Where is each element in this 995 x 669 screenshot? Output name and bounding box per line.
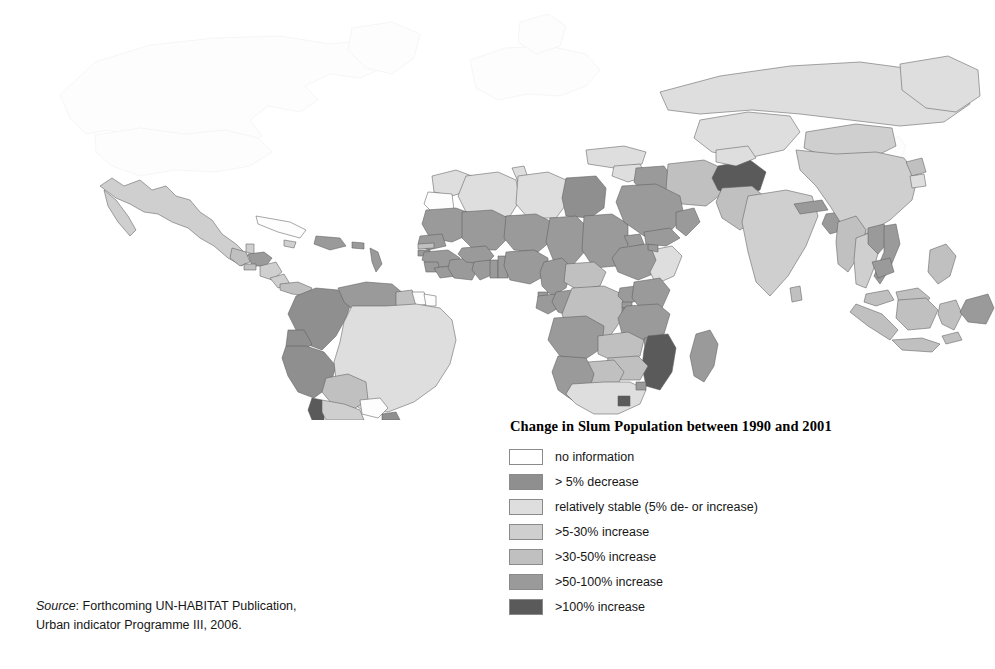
map-group-latin-america xyxy=(100,178,456,420)
country-chile xyxy=(308,398,324,420)
source-note: Source: Forthcoming UN-HABITAT Publicati… xyxy=(36,597,297,635)
legend-swatch-increase-5-30 xyxy=(509,524,543,540)
map-legend: Change in Slum Population between 1990 a… xyxy=(509,418,979,619)
country-french-guiana xyxy=(424,294,436,306)
world-map-svg xyxy=(0,0,995,420)
country-lesser-antilles xyxy=(370,248,382,272)
country-papua-new-guinea xyxy=(960,294,994,324)
legend-label-no-information: no information xyxy=(555,450,634,464)
country-uruguay xyxy=(382,412,400,420)
legend-swatch-increase-100 xyxy=(509,599,543,615)
country-timor xyxy=(942,332,962,344)
country-angola xyxy=(548,316,604,360)
legend-row-decrease-5: > 5% decrease xyxy=(509,469,979,494)
source-line-1-text: Forthcoming UN-HABITAT Publication, xyxy=(83,599,297,613)
country-el-salvador xyxy=(244,264,256,270)
country-belize xyxy=(246,244,254,254)
country-togo xyxy=(490,260,498,278)
legend-title: Change in Slum Population between 1990 a… xyxy=(510,418,979,435)
legend-label-increase-50-100: >50-100% increase xyxy=(555,575,663,589)
country-gambia xyxy=(418,243,434,249)
source-line-2: Urban indicator Programme III, 2006. xyxy=(36,616,297,635)
country-niger xyxy=(504,214,552,252)
country-swaziland xyxy=(636,382,646,390)
source-separator: : xyxy=(76,599,83,613)
source-label: Source xyxy=(36,599,76,613)
legend-label-increase-30-50: >30-50% increase xyxy=(555,550,656,564)
legend-row-increase-50-100: >50-100% increase xyxy=(509,569,979,594)
slum-population-change-figure: Change in Slum Population between 1990 a… xyxy=(0,0,995,669)
legend-row-no-information: no information xyxy=(509,444,979,469)
legend-row-increase-30-50: >30-50% increase xyxy=(509,544,979,569)
legend-row-relatively-stable: relatively stable (5% de- or increase) xyxy=(509,494,979,519)
country-sulawesi xyxy=(938,300,962,330)
source-line-1: Source: Forthcoming UN-HABITAT Publicati… xyxy=(36,597,297,616)
country-jamaica xyxy=(284,240,296,248)
legend-swatch-increase-50-100 xyxy=(509,574,543,590)
country-south-africa xyxy=(566,382,646,414)
country-usa xyxy=(95,128,272,176)
country-europe xyxy=(470,46,600,100)
legend-swatch-increase-30-50 xyxy=(509,549,543,565)
legend-row-increase-5-30: >5-30% increase xyxy=(509,519,979,544)
country-sri-lanka xyxy=(790,286,802,302)
country-philippines xyxy=(928,244,956,284)
country-mali xyxy=(462,210,510,250)
legend-swatch-decrease-5 xyxy=(509,474,543,490)
legend-label-increase-100: >100% increase xyxy=(555,600,645,614)
country-mozambique xyxy=(642,334,676,390)
country-south-korea xyxy=(910,174,926,188)
legend-swatch-no-information xyxy=(509,449,543,465)
country-chad xyxy=(546,216,588,266)
country-egypt xyxy=(562,176,606,218)
country-puerto-rico xyxy=(352,242,364,249)
country-madagascar xyxy=(690,330,718,382)
country-malaysia xyxy=(864,290,894,306)
legend-label-relatively-stable: relatively stable (5% de- or increase) xyxy=(555,500,758,514)
country-borneo xyxy=(896,298,938,330)
country-oman xyxy=(676,208,700,236)
legend-swatch-relatively-stable xyxy=(509,499,543,515)
country-lesotho xyxy=(618,396,630,406)
country-hispaniola xyxy=(314,236,346,250)
country-sumatra xyxy=(850,304,898,340)
country-cuba xyxy=(256,216,306,238)
world-map xyxy=(0,0,995,420)
legend-row-increase-100: >100% increase xyxy=(509,594,979,619)
country-libya xyxy=(516,172,568,218)
country-somalia xyxy=(650,246,682,284)
legend-label-decrease-5: > 5% decrease xyxy=(555,475,639,489)
country-java xyxy=(892,338,940,352)
legend-label-increase-5-30: >5-30% increase xyxy=(555,525,649,539)
